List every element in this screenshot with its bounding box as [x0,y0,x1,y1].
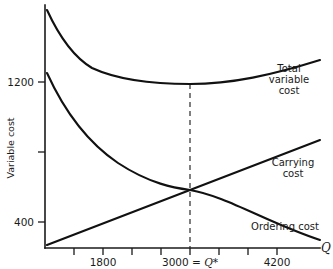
y-tick-label-1200: 1200 [7,76,34,88]
series-label-total-variable-cost-line1: Total [276,63,300,74]
series-label-ordering-cost: Ordering cost [251,221,319,232]
x-tick-label-3000-num: 3000 = [162,256,204,268]
y-tick-label-400: 400 [14,216,34,228]
series-label-total-variable-cost-line2: variable [269,74,309,85]
x-axis-title: Q [321,241,331,255]
y-axis-title: Variable cost [5,117,16,178]
x-tick-label-3000: 3000 = Q* [162,256,219,269]
x-tick-label-4200: 4200 [264,256,291,268]
series-label-carrying-cost-line1: Carrying [272,157,315,168]
series-label-total-variable-cost-line3: cost [279,85,300,96]
x-tick-label-3000-symbol: Q* [204,256,219,269]
eoq-chart: 1200 400 Variable cost 1800 3000 = Q* 42… [0,0,333,269]
chart-svg: 1200 400 Variable cost 1800 3000 = Q* 42… [0,0,333,269]
x-tick-label-1800: 1800 [90,256,117,268]
series-label-carrying-cost-line2: cost [283,168,304,179]
